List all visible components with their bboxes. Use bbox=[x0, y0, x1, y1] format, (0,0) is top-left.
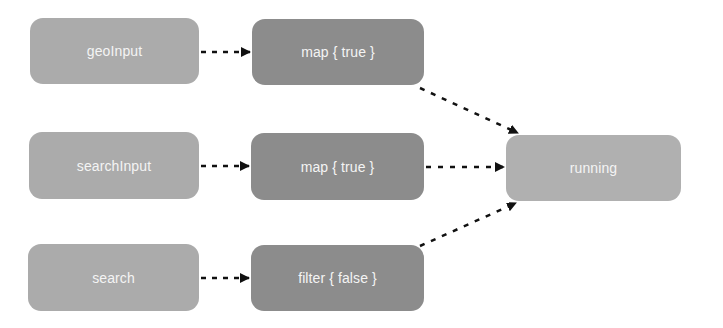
node-label: running bbox=[570, 160, 617, 176]
node-map-geo: map { true } bbox=[252, 19, 424, 85]
node-label: filter { false } bbox=[298, 270, 377, 286]
edge-map-to-running-top bbox=[420, 88, 518, 133]
node-label: search bbox=[92, 270, 135, 286]
node-label: searchInput bbox=[77, 158, 151, 174]
node-search: search bbox=[28, 244, 199, 311]
node-map-search: map { true } bbox=[251, 133, 424, 200]
edge-filter-to-running bbox=[420, 203, 516, 246]
node-label: map { true } bbox=[301, 159, 375, 175]
node-searchinput: searchInput bbox=[29, 132, 199, 199]
node-filter: filter { false } bbox=[251, 245, 424, 311]
node-label: geoInput bbox=[87, 43, 142, 59]
node-label: map { true } bbox=[301, 44, 375, 60]
node-geoinput: geoInput bbox=[30, 18, 199, 84]
node-running: running bbox=[506, 135, 681, 201]
